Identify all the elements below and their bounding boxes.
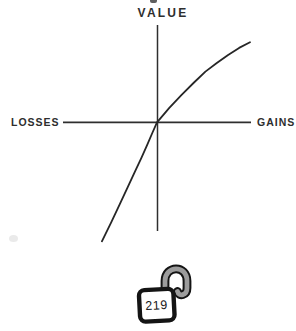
value-function-figure: 219	[0, 0, 296, 331]
unlocked-padlock-icon: 219	[139, 269, 187, 322]
book-page: VALUE LOSSES GAINS 219	[0, 0, 296, 331]
page-number: 219	[145, 298, 168, 313]
scan-artifact-smudge	[9, 235, 18, 242]
value-curve	[102, 42, 250, 241]
scan-artifact-top	[150, 0, 157, 3]
